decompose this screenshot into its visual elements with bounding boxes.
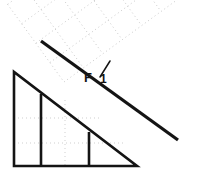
rotated-grid-lines [8, 0, 181, 82]
rotated-grid-col-line [8, 4, 64, 82]
rotated-grid-col-line [85, 0, 141, 26]
diagram-canvas: F 1 [0, 0, 223, 183]
triangle-outline [14, 72, 137, 166]
rotated-grid-row-line [36, 0, 152, 43]
force-label-subscript: 1 [100, 72, 107, 86]
rotated-grid-col-line [27, 0, 83, 68]
right-triangle-wedge [14, 72, 137, 166]
rotated-dotted-grid [8, 0, 181, 82]
rotated-grid-row-line [22, 0, 138, 24]
incline-surface-line [41, 41, 178, 140]
rotated-grid-col-line [105, 0, 161, 11]
force-label-F: F [84, 70, 92, 85]
rotated-grid-row-line [50, 0, 166, 63]
rotated-grid-col-line [46, 0, 102, 54]
rotated-grid-col-line [66, 0, 122, 40]
inner-dotted-grid [14, 100, 126, 166]
diagram-svg: F 1 [0, 0, 223, 183]
